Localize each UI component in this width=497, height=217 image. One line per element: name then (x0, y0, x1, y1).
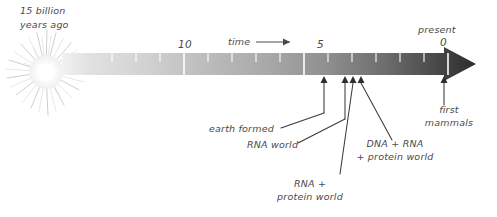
marker-rna-protein-world (340, 76, 357, 174)
annotation-label-rna-world: RNA world (247, 139, 299, 150)
tick-label-10: 10 (178, 38, 192, 50)
annotation-label-first-mammals-line1: first (439, 104, 460, 115)
annotation-label-rna-protein-world-line2: protein world (276, 191, 344, 202)
annotation-label-dna-rna-protein-world-line1: DNA + RNA (367, 138, 424, 149)
present-label-line2: 0 (440, 36, 447, 48)
marker-dna-rna-protein-world (358, 76, 393, 140)
tick-label-5: 5 (317, 38, 324, 50)
time-axis-label: time (228, 36, 250, 47)
annotation-label-rna-protein-world-line1: RNA + (294, 178, 326, 189)
time-arrow-icon (256, 39, 290, 46)
marker-first-mammals (441, 76, 448, 105)
start-label-line1: 15 billion (20, 5, 66, 16)
annotation-label-first-mammals-line2: mammals (425, 117, 473, 128)
start-label-line2: years ago (19, 19, 69, 30)
timeline-bar (62, 47, 476, 81)
marker-rna-world (298, 76, 349, 143)
figure-canvas: 10 5 time 15 billion years ago present 0 (0, 0, 497, 217)
annotation-label-dna-rna-protein-world-line2: + protein world (356, 151, 434, 162)
annotation-label-earth-formed: earth formed (209, 123, 275, 134)
marker-earth-formed (281, 76, 328, 128)
timeline-diagram: 10 5 time 15 billion years ago present 0 (0, 0, 497, 217)
present-label-line1: present (417, 24, 457, 35)
